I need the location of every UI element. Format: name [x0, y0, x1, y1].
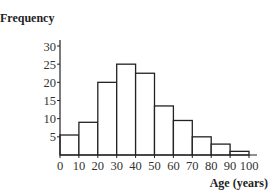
- histogram-bar: [155, 106, 174, 155]
- histogram-bars: [60, 64, 249, 155]
- histogram-bar: [192, 137, 211, 155]
- x-tick-label: 20: [92, 159, 105, 173]
- x-tick-label: 10: [73, 159, 86, 173]
- histogram-bar: [98, 82, 117, 155]
- histogram-bar: [60, 135, 79, 155]
- x-tick-label: 30: [110, 159, 123, 173]
- histogram-bar: [117, 64, 136, 155]
- x-tick-label: 60: [167, 159, 180, 173]
- x-tick-label: 0: [57, 159, 63, 173]
- x-tick-label: 100: [240, 159, 259, 173]
- histogram-chart: 510152025300102030405060708090100 Freque…: [0, 0, 271, 196]
- histogram-bar: [79, 122, 98, 155]
- y-tick-label: 5: [50, 130, 56, 144]
- x-tick-label: 70: [186, 159, 199, 173]
- histogram-bar: [136, 73, 155, 155]
- x-tick-label: 90: [224, 159, 237, 173]
- y-tick-label: 25: [44, 58, 57, 72]
- x-tick-label: 40: [129, 159, 142, 173]
- x-tick-label: 50: [148, 159, 161, 173]
- y-tick-label: 30: [44, 40, 57, 54]
- x-tick-label: 80: [205, 159, 218, 173]
- y-tick-label: 20: [44, 76, 57, 90]
- y-tick-label: 15: [44, 94, 57, 108]
- y-axis-label: Frequency: [0, 11, 54, 25]
- y-tick-label: 10: [44, 112, 57, 126]
- x-axis-label: Age (years): [210, 176, 268, 190]
- histogram-bar: [211, 144, 230, 155]
- histogram-bar: [173, 120, 192, 155]
